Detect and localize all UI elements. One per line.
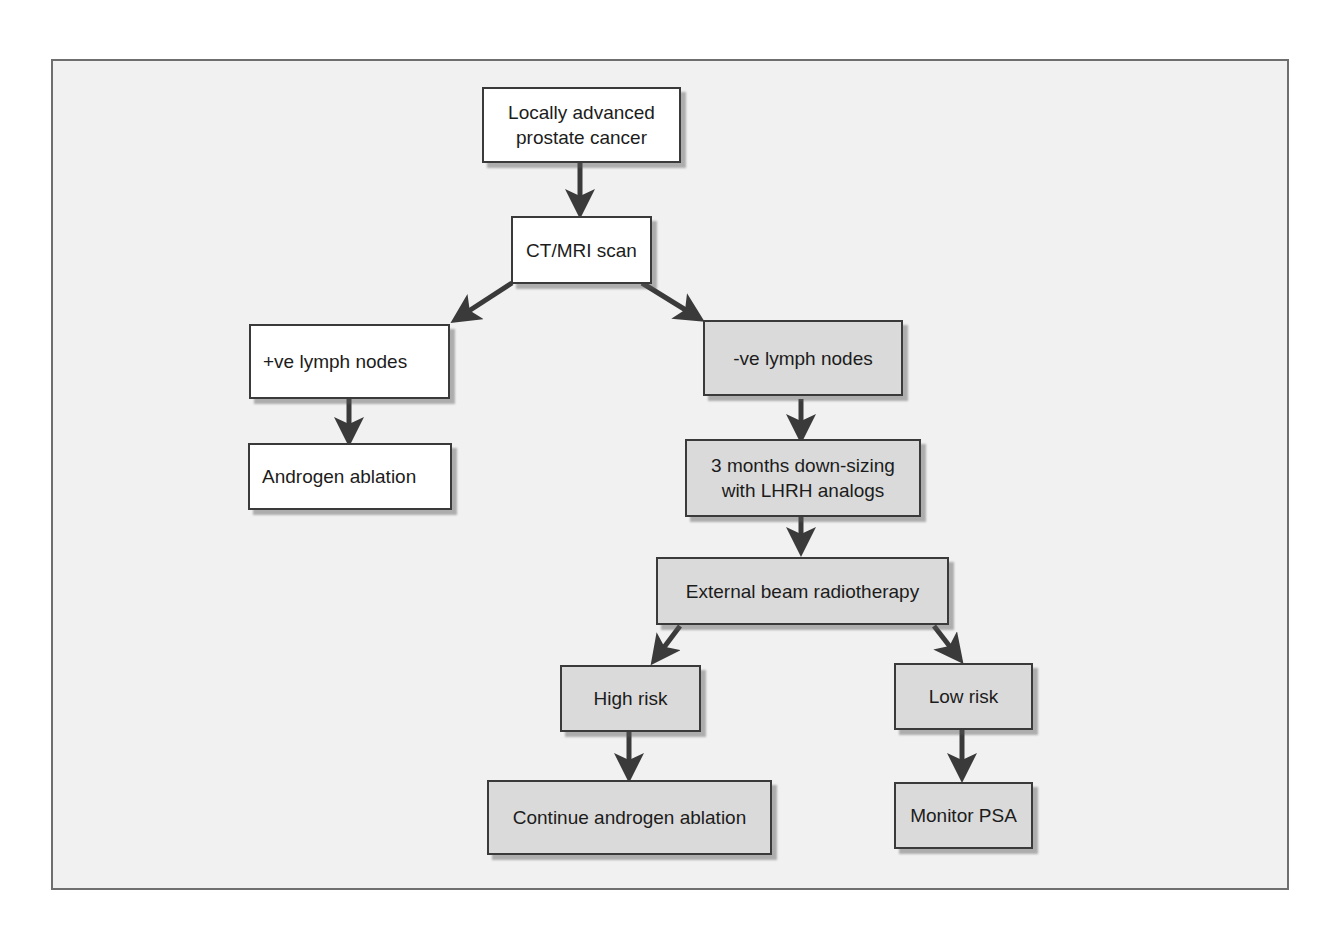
node-high-risk[interactable]: High risk bbox=[560, 665, 701, 732]
node-positive-lymph-nodes[interactable]: +ve lymph nodes bbox=[249, 324, 450, 399]
node-androgen-ablation[interactable]: Androgen ablation bbox=[248, 443, 452, 510]
node-ct-mri[interactable]: CT/MRI scan bbox=[511, 216, 652, 284]
diagram-frame bbox=[51, 59, 1289, 890]
node-monitor-psa[interactable]: Monitor PSA bbox=[894, 782, 1033, 849]
node-negative-lymph-nodes[interactable]: -ve lymph nodes bbox=[703, 320, 903, 396]
node-locally-advanced[interactable]: Locally advanced prostate cancer bbox=[482, 87, 681, 163]
node-low-risk[interactable]: Low risk bbox=[894, 663, 1033, 730]
node-external-beam-radiotherapy[interactable]: External beam radiotherapy bbox=[656, 557, 949, 625]
node-continue-androgen-ablation[interactable]: Continue androgen ablation bbox=[487, 780, 772, 855]
node-downsizing-lhrh[interactable]: 3 months down-sizing with LHRH analogs bbox=[685, 439, 921, 517]
